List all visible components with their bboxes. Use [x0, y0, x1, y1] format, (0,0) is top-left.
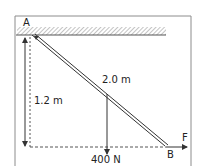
point-a-label: A [23, 17, 30, 28]
point-b-label: B [167, 149, 174, 160]
force-label: F [182, 132, 188, 143]
ceiling-support [16, 27, 166, 35]
beam-ab [32, 34, 168, 146]
height-label: 1.2 m [34, 95, 63, 106]
beam-length-label: 2.0 m [102, 74, 131, 85]
load-label: 400 N [91, 154, 121, 165]
beam-diagram: A 1.2 m 2.0 m 400 N F B [0, 0, 202, 166]
